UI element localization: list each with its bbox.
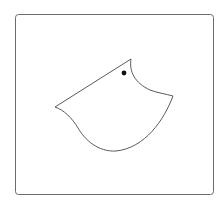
diagram-canvas [0,0,224,206]
eye-dot-icon [122,71,127,76]
